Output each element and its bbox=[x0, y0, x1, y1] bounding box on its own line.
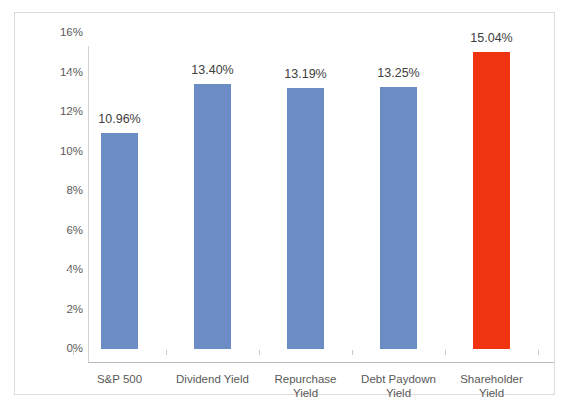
category-label-5: ShareholderYield bbox=[439, 372, 544, 401]
category-label-4: Debt PaydownYield bbox=[346, 372, 451, 401]
bar-1[interactable] bbox=[101, 133, 138, 349]
bar-5[interactable] bbox=[473, 52, 510, 349]
bar-3[interactable] bbox=[287, 88, 324, 349]
y-axis-tick-mark bbox=[68, 152, 73, 153]
chart-frame: 0%2%4%6%8%10%12%14%16% 10.96%13.40%13.19… bbox=[14, 12, 555, 395]
bar-2[interactable] bbox=[194, 84, 231, 349]
bar-data-label: 15.04% bbox=[435, 32, 548, 45]
y-axis-tick-label: 0% bbox=[39, 343, 83, 355]
category-label-1: S&P 500 bbox=[67, 372, 172, 386]
bar-data-label: 10.96% bbox=[63, 113, 176, 126]
y-axis-tick-mark bbox=[68, 73, 73, 74]
category-label-line: Debt Paydown bbox=[346, 372, 451, 386]
category-label-line: Yield bbox=[439, 386, 544, 400]
category-label-line: Yield bbox=[346, 386, 451, 400]
y-axis-tick-label: 14% bbox=[39, 67, 83, 79]
y-axis-tick-mark bbox=[68, 270, 73, 271]
category-axis-line bbox=[88, 362, 554, 363]
y-axis-tick-label: 6% bbox=[39, 225, 83, 237]
y-axis-tick-mark bbox=[68, 191, 73, 192]
value-axis-line bbox=[88, 46, 89, 362]
x-axis-tick-mark bbox=[445, 350, 446, 355]
category-label-3: RepurchaseYield bbox=[253, 372, 358, 401]
y-axis-tick-label: 4% bbox=[39, 264, 83, 276]
y-axis-tick-mark bbox=[68, 231, 73, 232]
x-axis-tick-mark bbox=[259, 350, 260, 355]
category-label-line: S&P 500 bbox=[67, 372, 172, 386]
x-axis-tick-mark bbox=[166, 350, 167, 355]
y-axis-tick-label: 16% bbox=[39, 27, 83, 39]
y-axis-tick-mark bbox=[68, 310, 73, 311]
y-axis-tick-label: 10% bbox=[39, 146, 83, 158]
category-label-line: Dividend Yield bbox=[160, 372, 265, 386]
y-axis-tick-label: 2% bbox=[39, 304, 83, 316]
y-axis-tick-mark bbox=[68, 33, 73, 34]
x-axis-tick-mark bbox=[538, 350, 539, 355]
category-label-line: Shareholder bbox=[439, 372, 544, 386]
category-label-2: Dividend Yield bbox=[160, 372, 265, 386]
category-label-line: Repurchase bbox=[253, 372, 358, 386]
x-axis-tick-mark bbox=[352, 350, 353, 355]
bar-4[interactable] bbox=[380, 87, 417, 349]
category-label-line: Yield bbox=[253, 386, 358, 400]
y-axis-tick-label: 8% bbox=[39, 185, 83, 197]
x-axis-tick-mark bbox=[73, 350, 74, 355]
bar-data-label: 13.25% bbox=[342, 67, 455, 80]
